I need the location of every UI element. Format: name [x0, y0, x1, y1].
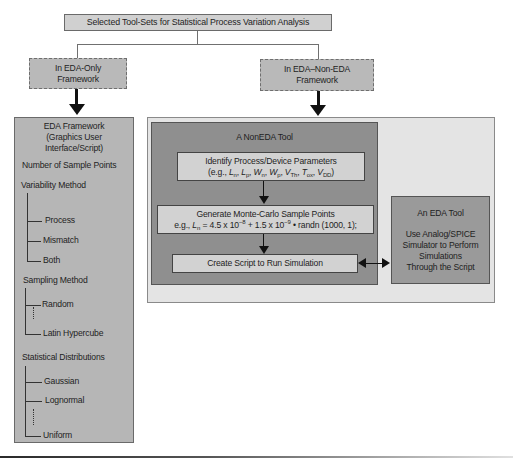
- eda-tool-line4: Through the Script: [407, 262, 475, 273]
- distributions-branch-uniform: [25, 436, 41, 437]
- branch-eda-only: In EDA-Only Framework: [29, 58, 127, 89]
- variability-item-mismatch: Mismatch: [43, 235, 79, 246]
- title-box: Selected Tool-Sets for Statistical Proce…: [64, 14, 332, 31]
- arrow-right-head-icon: [382, 258, 390, 268]
- identify-parameters-line1: Identify Process/Device Parameters: [205, 156, 337, 167]
- generate-samples-box: Generate Monte-Carlo Sample Points e.g.,…: [157, 205, 374, 234]
- eda-tool-line1: Use Analog/SPICE: [406, 229, 476, 240]
- create-script-text: Create Script to Run Simulation: [207, 258, 323, 269]
- eda-tool-line2: Simulator to Perform: [403, 240, 479, 251]
- identify-parameters-box: Identify Process/Device Parameters (e.g.…: [177, 152, 365, 181]
- arrow-right-stem: [317, 91, 320, 106]
- branch-eda-non-eda: In EDA–Non-EDA Framework: [260, 59, 374, 91]
- sample-points-label: Number of Sample Points: [22, 160, 116, 171]
- create-script-box: Create Script to Run Simulation: [172, 254, 358, 273]
- arrow-down-right-icon: [310, 105, 326, 116]
- page-bottom-rule: [0, 456, 513, 458]
- title-text: Selected Tool-Sets for Statistical Proce…: [87, 17, 309, 28]
- arrow-identify-generate-stem: [263, 181, 264, 196]
- variability-tree-trunk: [27, 193, 28, 262]
- eda-framework-heading-line3: Interface/Script): [45, 143, 103, 154]
- branch-connector-right-drop: [318, 44, 319, 59]
- arrow-down-identify-generate-icon: [259, 196, 269, 204]
- distribution-item-lognormal: Lognormal: [45, 395, 84, 406]
- variability-branch-both: [27, 261, 41, 262]
- sampling-tree-trunk: [25, 288, 26, 305]
- eda-framework-heading: EDA Framework (Graphics User Interface/S…: [14, 119, 134, 155]
- arrow-down-left-icon: [69, 104, 85, 115]
- eda-framework-heading-line1: EDA Framework: [44, 121, 105, 132]
- bidirectional-arrow-shaft: [365, 263, 382, 264]
- branch-eda-only-line2: Framework: [57, 74, 99, 85]
- sampling-item-random: Random: [42, 299, 74, 310]
- distributions-branch-lognormal: [25, 401, 42, 402]
- eda-tool-title: An EDA Tool: [417, 208, 463, 219]
- arrow-left-head-icon: [358, 258, 366, 268]
- branch-eda-non-eda-line2: Framework: [296, 75, 338, 86]
- eda-framework-heading-line2: (Graphics User: [46, 132, 102, 143]
- variability-branch-process: [27, 221, 42, 222]
- branch-connector-left-drop: [77, 44, 78, 58]
- non-eda-tool-title: A NonEDA Tool: [151, 131, 378, 143]
- branch-eda-only-line1: In EDA-Only: [55, 63, 101, 74]
- variability-branch-mismatch: [27, 241, 41, 242]
- variability-item-both: Both: [43, 255, 60, 266]
- distributions-branch-gaussian: [25, 382, 42, 383]
- variability-item-process: Process: [45, 215, 75, 226]
- generate-samples-line1: Generate Monte-Carlo Sample Points: [196, 209, 334, 220]
- title-connector-stem: [197, 31, 198, 44]
- branch-eda-non-eda-line1: In EDA–Non-EDA: [284, 64, 350, 75]
- sampling-item-latin-hypercube: Latin Hypercube: [43, 328, 103, 339]
- sampling-branch-random: [25, 305, 41, 306]
- eda-tool-box: An EDA Tool Use Analog/SPICE Simulator t…: [391, 196, 490, 284]
- branch-connector-horizontal: [77, 44, 319, 45]
- distributions-label: Statistical Distributions: [22, 352, 105, 363]
- distributions-tree-ellipsis: [33, 409, 34, 425]
- arrow-generate-script-stem: [263, 234, 264, 246]
- non-eda-tool-title-text: A NonEDA Tool: [236, 132, 293, 143]
- generate-samples-equation: e.g., Ln = 4.5 x 10−8 + 1.5 x 10−9 • ran…: [174, 220, 357, 231]
- sampling-method-label: Sampling Method: [23, 275, 88, 286]
- sampling-tree-trunk-lower: [25, 305, 26, 334]
- distribution-item-uniform: Uniform: [43, 430, 72, 441]
- variability-method-label: Variability Method: [21, 180, 86, 191]
- sampling-branch-latin: [25, 334, 41, 335]
- eda-tool-line3: Simulations: [419, 251, 462, 262]
- distribution-item-gaussian: Gaussian: [44, 376, 79, 387]
- arrow-left-stem: [75, 89, 78, 105]
- identify-parameters-list: (e.g., Ln, Lp, Wn, Wp, VTh, Tox, VDD): [208, 167, 334, 178]
- sampling-tree-ellipsis: [33, 307, 34, 319]
- arrow-down-generate-script-icon: [259, 246, 269, 254]
